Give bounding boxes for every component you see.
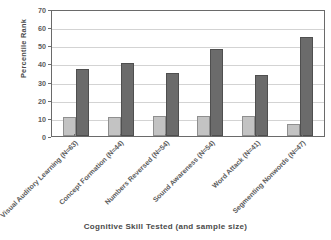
bar-group [188,11,233,136]
bar-post [210,49,223,136]
bar-group [99,11,144,136]
y-axis-tick-labels: 010203040506070 [26,8,48,137]
bar-pre [287,124,300,136]
y-tick-label: 50 [38,42,46,51]
bar-post [300,37,313,136]
x-tick-mark [165,134,166,137]
x-tick-mark [120,134,121,137]
y-tick-label: 70 [38,6,46,15]
y-tick-label: 30 [38,78,46,87]
y-tick-label: 40 [38,60,46,69]
x-tick-mark [74,134,75,137]
bar-pre [242,116,255,136]
x-tick-label: Word Attack (N=41) [211,139,261,189]
y-tick-label: 0 [42,133,46,142]
x-tick-mark [302,134,303,137]
x-tick-label: Segmenting Nonwords (N=47) [232,139,307,214]
y-tick-label: 60 [38,24,46,33]
bar-post [121,63,134,136]
x-tick-label: Visual Auditory Learning (N=63) [0,139,79,219]
bar-group [143,11,188,136]
bar-post [166,73,179,137]
bar-pre [197,116,210,136]
bar-post [76,69,89,136]
y-tick-label: 20 [38,96,46,105]
x-tick-mark [257,134,258,137]
bar-post [255,75,268,136]
x-axis-tick-labels: Visual Auditory Learning (N=63)Concept F… [51,137,325,217]
bar-series-container [52,11,324,136]
bar-group [233,11,278,136]
plot-area [51,10,325,137]
bar-pre [153,116,166,136]
y-tick-label: 10 [38,114,46,123]
x-axis-title: Cognitive Skill Tested (and sample size) [0,222,331,231]
bar-group [277,11,322,136]
x-tick-mark [211,134,212,137]
bar-group [54,11,99,136]
bar-chart-figure: Percentile Rank 010203040506070 Visual A… [0,0,331,240]
